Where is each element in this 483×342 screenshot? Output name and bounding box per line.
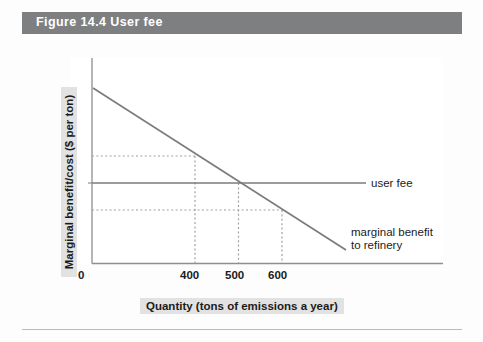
figure-container: Figure 14.4 User fee 45 35 25 0 400 500 …	[0, 0, 483, 342]
x-tick-label-400: 400	[180, 269, 199, 281]
series-marginal-benefit-line	[93, 88, 346, 250]
annotation-marginal-benefit-line2: to refinery	[351, 239, 433, 252]
x-tick-label-600: 600	[268, 269, 287, 281]
y-axis-title: Marginal benefit/cost ($ per ton)	[61, 87, 77, 277]
annotation-marginal-benefit-line1: marginal benefit	[351, 226, 433, 239]
annotation-marginal-benefit: marginal benefit to refinery	[351, 226, 433, 252]
x-tick-label-500: 500	[225, 269, 244, 281]
annotation-user-fee: user fee	[371, 177, 413, 190]
origin-label: 0	[78, 269, 84, 281]
x-axis-title: Quantity (tons of emissions a year)	[140, 298, 344, 314]
